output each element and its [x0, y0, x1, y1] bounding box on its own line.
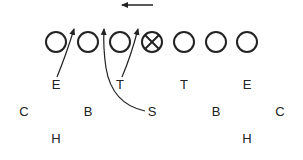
offensive-player-circle-icon [110, 32, 130, 52]
defender-label: E [243, 77, 252, 92]
route-t-arrow [122, 29, 138, 77]
offensive-player-circle-icon [78, 32, 98, 52]
blitz-routes [57, 29, 145, 111]
defender-label: C [275, 104, 284, 119]
defensive-players: ETTECBSBCHH [19, 77, 284, 146]
offensive-player-circle-icon [237, 32, 257, 52]
route-e-arrow [57, 29, 74, 77]
offensive-line [46, 32, 257, 52]
defender-label: T [116, 77, 124, 92]
offensive-player-circle-icon [174, 32, 194, 52]
defender-label: B [212, 104, 221, 119]
center-crossed-circle-icon [142, 32, 162, 52]
defender-label: T [180, 77, 188, 92]
offensive-player-circle-icon [206, 32, 226, 52]
offensive-player-circle-icon [46, 32, 66, 52]
defender-label: E [52, 77, 61, 92]
play-diagram: ETTECBSBCHH [0, 0, 303, 160]
defender-label: B [84, 104, 93, 119]
defender-label: H [242, 131, 251, 146]
defender-label: H [51, 131, 60, 146]
defender-label: C [19, 104, 28, 119]
defender-label: S [148, 104, 157, 119]
